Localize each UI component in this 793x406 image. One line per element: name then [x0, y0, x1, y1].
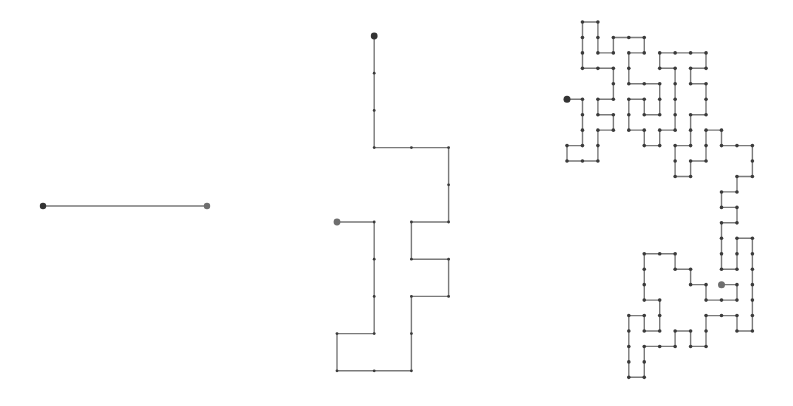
lattice-vertex: [658, 113, 662, 117]
lattice-vertex: [720, 128, 724, 132]
lattice-vertex: [596, 159, 600, 163]
lattice-vertex: [720, 190, 724, 194]
lattice-vertex: [642, 360, 646, 364]
lattice-vertex: [673, 82, 677, 86]
lattice-vertex: [704, 159, 708, 163]
lattice-vertex: [704, 283, 708, 287]
lattice-vertex: [689, 67, 693, 71]
lattice-vertex: [689, 175, 693, 179]
lattice-vertex: [658, 314, 662, 318]
lattice-vertex: [704, 97, 708, 101]
lattice-vertex: [751, 298, 755, 302]
lattice-vertex: [627, 329, 631, 333]
lattice-vertex: [642, 128, 646, 132]
lattice-vertex: [410, 258, 413, 261]
lattice-vertex: [689, 113, 693, 117]
lattice-vertex: [336, 332, 339, 335]
lattice-vertex: [612, 97, 616, 101]
lattice-vertex: [689, 159, 693, 163]
lattice-vertex: [735, 252, 739, 256]
lattice-vertex: [642, 82, 646, 86]
lattice-vertex: [704, 298, 708, 302]
start-point-marker: [371, 33, 378, 40]
lattice-vertex: [735, 283, 739, 287]
lattice-vertex: [658, 51, 662, 55]
lattice-vertex: [447, 146, 450, 149]
lattice-vertex: [673, 159, 677, 163]
lattice-vertex: [581, 144, 585, 148]
lattice-vertex: [751, 267, 755, 271]
lattice-vertex: [720, 237, 724, 241]
walk-1: [40, 203, 210, 209]
lattice-vertex: [447, 183, 450, 186]
lattice-vertex: [410, 146, 413, 149]
lattice-vertex: [673, 329, 677, 333]
lattice-vertex: [673, 128, 677, 132]
lattice-vertex: [642, 345, 646, 349]
lattice-vertex: [735, 314, 739, 318]
lattice-vertex: [673, 252, 677, 256]
lattice-vertex: [627, 113, 631, 117]
lattice-vertex: [735, 237, 739, 241]
lattice-vertex: [581, 20, 585, 24]
lattice-vertex: [627, 36, 631, 40]
lattice-vertex: [596, 128, 600, 132]
lattice-vertex: [704, 82, 708, 86]
lattice-vertex: [704, 345, 708, 349]
lattice-vertex: [596, 144, 600, 148]
lattice-vertex: [658, 298, 662, 302]
lattice-vertex: [373, 72, 376, 75]
lattice-vertex: [642, 36, 646, 40]
lattice-vertex: [373, 109, 376, 112]
lattice-vertex: [751, 159, 755, 163]
lattice-vertex: [612, 51, 616, 55]
lattice-vertex: [410, 295, 413, 298]
lattice-vertex: [373, 332, 376, 335]
lattice-vertex: [627, 314, 631, 318]
lattice-vertex: [447, 221, 450, 224]
lattice-vertex: [627, 51, 631, 55]
lattice-vertex: [735, 175, 739, 179]
lattice-vertex: [581, 159, 585, 163]
lattice-vertex: [751, 314, 755, 318]
random-walks-figure: [0, 0, 793, 406]
lattice-vertex: [673, 113, 677, 117]
walk-path: [337, 36, 449, 371]
lattice-vertex: [581, 36, 585, 40]
lattice-vertex: [704, 128, 708, 132]
lattice-vertex: [735, 267, 739, 271]
end-point-marker: [334, 219, 341, 226]
lattice-vertex: [720, 144, 724, 148]
walk-path: [567, 22, 752, 377]
lattice-vertex: [735, 190, 739, 194]
lattice-vertex: [627, 376, 631, 380]
lattice-vertex: [689, 267, 693, 271]
lattice-vertex: [735, 206, 739, 210]
lattice-vertex: [596, 51, 600, 55]
lattice-vertex: [751, 329, 755, 333]
lattice-vertex: [612, 128, 616, 132]
lattice-vertex: [581, 113, 585, 117]
end-point-marker: [204, 203, 210, 209]
lattice-vertex: [658, 67, 662, 71]
lattice-vertex: [689, 82, 693, 86]
lattice-vertex: [596, 113, 600, 117]
lattice-vertex: [612, 113, 616, 117]
lattice-vertex: [751, 175, 755, 179]
lattice-vertex: [642, 144, 646, 148]
lattice-vertex: [596, 36, 600, 40]
lattice-vertex: [596, 20, 600, 24]
lattice-vertex: [704, 67, 708, 71]
lattice-vertex: [627, 128, 631, 132]
lattice-vertex: [642, 283, 646, 287]
lattice-vertex: [751, 237, 755, 241]
lattice-vertex: [581, 51, 585, 55]
lattice-vertex: [642, 267, 646, 271]
lattice-vertex: [689, 144, 693, 148]
lattice-vertex: [373, 221, 376, 224]
lattice-vertex: [689, 51, 693, 55]
lattice-vertex: [689, 345, 693, 349]
lattice-vertex: [373, 369, 376, 372]
lattice-vertex: [410, 221, 413, 224]
lattice-vertex: [447, 295, 450, 298]
